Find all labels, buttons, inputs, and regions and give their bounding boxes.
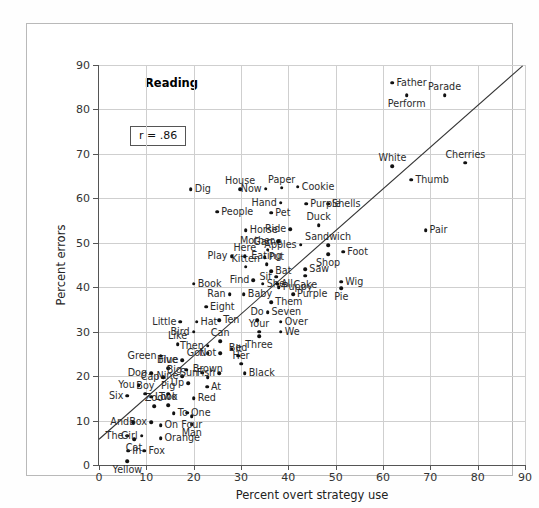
x-tick-mark xyxy=(194,465,195,470)
x-tick-label: 80 xyxy=(471,471,485,484)
data-point xyxy=(204,305,208,309)
x-tick-label: 50 xyxy=(329,471,343,484)
data-point-label: Six xyxy=(109,391,123,401)
data-point xyxy=(186,381,190,385)
data-point-label: Thumb xyxy=(415,175,448,185)
data-point-label: Sun xyxy=(180,368,198,378)
data-point xyxy=(443,93,447,97)
data-point-label: Then xyxy=(180,341,204,351)
data-point xyxy=(279,320,283,324)
data-point xyxy=(137,383,141,387)
data-point xyxy=(217,372,221,376)
data-point-label: Pair xyxy=(430,226,448,236)
data-point-label: Ran xyxy=(207,290,225,300)
data-point xyxy=(276,239,280,243)
data-point xyxy=(195,320,199,324)
data-point xyxy=(149,421,153,425)
data-point-label: Bird xyxy=(171,327,190,337)
data-point xyxy=(166,392,170,396)
data-point-label: Eight xyxy=(210,302,235,312)
data-point xyxy=(296,185,300,189)
x-tick-mark xyxy=(288,465,289,470)
data-point xyxy=(185,411,189,415)
data-point xyxy=(299,243,303,247)
x-tick-mark xyxy=(525,465,526,470)
data-point xyxy=(266,310,270,314)
data-point xyxy=(217,318,221,322)
data-point xyxy=(263,255,267,259)
data-point xyxy=(239,362,243,366)
data-point-label: Cat xyxy=(126,443,142,453)
x-tick-label: 60 xyxy=(376,471,390,484)
x-axis-title: Percent overt strategy use xyxy=(236,488,389,502)
data-point xyxy=(243,254,247,258)
data-point xyxy=(341,250,345,254)
data-point-label: Cake xyxy=(294,280,318,290)
data-point-label: Three xyxy=(245,340,272,350)
data-point-label: Find xyxy=(230,275,250,285)
figure-frame: Percent errors Percent overt strategy us… xyxy=(26,23,513,476)
data-point-label: On xyxy=(165,420,179,430)
data-point xyxy=(140,434,144,438)
data-point xyxy=(152,405,156,409)
data-point-label: Cookie xyxy=(302,182,335,192)
data-point xyxy=(305,202,309,206)
data-point-label: Ten xyxy=(223,315,239,325)
data-point-label: It xyxy=(236,344,243,354)
data-point-label: Yellow xyxy=(113,465,143,475)
data-point-label: Over xyxy=(285,317,308,327)
data-point xyxy=(288,228,292,232)
data-point xyxy=(252,278,256,282)
y-tick-label: 20 xyxy=(76,370,90,383)
data-point-label: Your xyxy=(249,319,269,329)
chart-page: Percent errors Percent overt strategy us… xyxy=(0,0,539,508)
data-point xyxy=(205,385,209,389)
data-point-label: People xyxy=(221,207,253,217)
data-point xyxy=(218,351,222,355)
data-point xyxy=(279,201,283,205)
data-point xyxy=(162,375,166,379)
data-point-label: Box xyxy=(129,418,147,428)
data-point-label: Duck xyxy=(306,212,330,222)
data-point xyxy=(216,210,220,214)
data-point xyxy=(184,368,188,372)
data-point-label: Girl xyxy=(121,431,138,441)
data-point-label: Purple xyxy=(310,199,340,209)
data-point-label: Put xyxy=(269,252,284,262)
data-point xyxy=(126,460,130,464)
data-point-label: We xyxy=(285,327,300,337)
data-point xyxy=(192,330,196,334)
data-point-label: Baby xyxy=(248,290,272,300)
data-point-label: Red xyxy=(198,394,216,404)
data-point xyxy=(405,93,409,97)
x-tick-label: 20 xyxy=(187,471,201,484)
x-tick-label: 40 xyxy=(281,471,295,484)
y-tick-label: 50 xyxy=(76,236,90,249)
x-tick-label: 0 xyxy=(96,471,103,484)
data-point xyxy=(244,229,248,233)
data-point xyxy=(206,344,210,348)
data-point-label: Book xyxy=(198,279,222,289)
data-point-label: Four xyxy=(181,420,202,430)
data-point xyxy=(269,211,273,215)
data-point xyxy=(464,161,468,165)
data-point xyxy=(228,293,232,297)
x-tick-mark xyxy=(336,465,337,470)
data-point-label: Little xyxy=(152,317,176,327)
y-tick-label: 30 xyxy=(76,325,90,338)
data-point xyxy=(279,330,283,334)
data-point-label: All xyxy=(281,279,293,289)
y-tick-label: 0 xyxy=(83,459,90,472)
data-point-label: Wig xyxy=(345,277,363,287)
data-point xyxy=(230,347,234,351)
plot-area: 0102030405060708090 0102030405060708090 … xyxy=(99,65,525,465)
x-tick-mark xyxy=(383,465,384,470)
data-point-label: Hand xyxy=(251,198,276,208)
data-point xyxy=(269,301,273,305)
data-point-label: Can xyxy=(211,329,230,339)
data-point xyxy=(143,449,147,453)
y-tick-label: 40 xyxy=(76,281,90,294)
y-tick-label: 60 xyxy=(76,192,90,205)
data-point-label: Fish xyxy=(197,369,216,379)
data-point-label: Foot xyxy=(347,247,368,257)
